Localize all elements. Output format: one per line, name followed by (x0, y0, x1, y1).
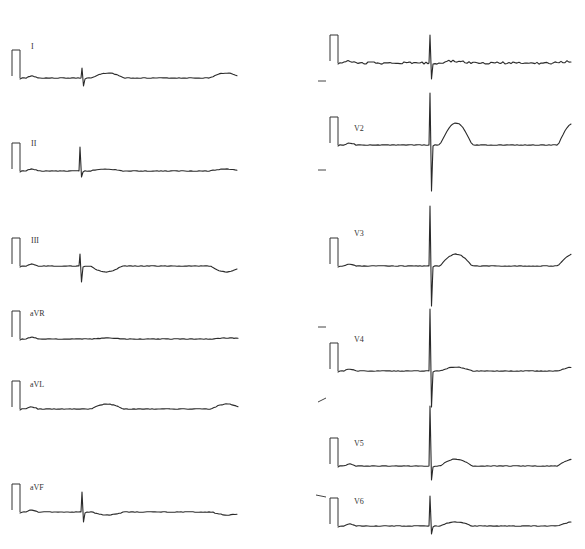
lead-v2: V2 (330, 93, 571, 191)
lead-label: III (31, 236, 39, 245)
waveform-trace (338, 406, 571, 480)
lead-avf: aVF (12, 483, 237, 522)
calibration-pulse (330, 438, 338, 466)
lead-v5: V5 (330, 406, 571, 480)
lead-v3: V3 (330, 206, 571, 306)
calibration-pulse (12, 311, 20, 339)
waveform-trace (338, 93, 571, 191)
calibration-pulse (12, 381, 20, 409)
waveform-trace (20, 254, 237, 282)
waveform-trace (338, 206, 571, 306)
calibration-pulse (330, 498, 338, 526)
lead-label: II (31, 139, 37, 148)
calibration-pulse (12, 484, 20, 512)
lead-label: aVL (30, 380, 44, 389)
waveform-trace (338, 309, 571, 407)
lead-label: aVR (30, 309, 45, 318)
calibration-pulse (330, 238, 338, 266)
waveform-trace (20, 68, 237, 86)
waveform-trace (20, 337, 238, 340)
lead-label: V2 (354, 124, 364, 133)
lead-i: I (12, 42, 237, 86)
margin-tick (318, 398, 326, 402)
waveform-trace (338, 496, 571, 534)
calibration-pulse (12, 50, 20, 78)
lead-v1 (330, 35, 571, 79)
calibration-pulse (12, 143, 20, 171)
calibration-pulse (12, 238, 20, 266)
lead-avr: aVR (12, 309, 238, 340)
lead-label: aVF (30, 483, 44, 492)
waveform-trace (20, 404, 238, 410)
margin-marks (316, 81, 326, 497)
waveform-trace (338, 35, 571, 79)
lead-label: V4 (354, 335, 364, 344)
lead-iii: III (12, 236, 237, 282)
lead-v4: V4 (330, 309, 571, 407)
calibration-pulse (330, 35, 338, 63)
calibration-pulse (330, 117, 338, 145)
lead-label: V6 (354, 497, 364, 506)
ecg-leads: IIIIIIaVRaVLaVFV2V3V4V5V6 (12, 35, 571, 534)
lead-ii: II (12, 139, 237, 177)
ecg-tracing-sheet: IIIIIIaVRaVLaVFV2V3V4V5V6 (0, 0, 585, 549)
calibration-pulse (330, 343, 338, 371)
lead-label: I (31, 42, 34, 51)
waveform-trace (20, 492, 237, 522)
lead-v6: V6 (330, 496, 571, 534)
lead-label: V3 (354, 229, 364, 238)
lead-label: V5 (354, 439, 364, 448)
margin-tick (316, 495, 326, 497)
lead-avl: aVL (12, 380, 238, 410)
waveform-trace (20, 147, 237, 177)
